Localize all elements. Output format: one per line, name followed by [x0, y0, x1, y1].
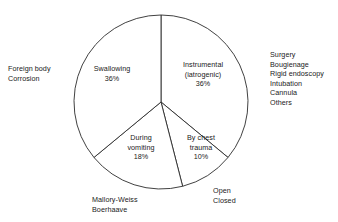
slice-label-during-vomiting-name-2: vomiting: [110, 143, 172, 153]
annotation-left: Foreign body Corrosion: [8, 64, 80, 83]
slice-label-instrumental-name-2: (iatrogenic): [160, 70, 246, 80]
annotation-right: Surgery Bougienage Rigid endoscopy Intub…: [270, 50, 338, 108]
annotation-right-line-3: Rigid endoscopy: [270, 69, 338, 79]
annotation-right-line-5: Cannula: [270, 88, 338, 98]
annotation-bottom-right-line-1: Open: [213, 186, 257, 196]
slice-label-during-vomiting: During vomiting 18%: [110, 133, 172, 162]
slice-label-chest-trauma-name: By chest: [170, 133, 232, 143]
annotation-right-line-2: Bougienage: [270, 60, 338, 70]
slice-label-chest-trauma-value: 10%: [170, 152, 232, 162]
pie-slices: [74, 15, 248, 189]
slice-label-during-vomiting-value: 18%: [110, 152, 172, 162]
annotation-right-line-1: Surgery: [270, 50, 338, 60]
annotation-right-line-6: Others: [270, 98, 338, 108]
annotation-right-line-4: Intubation: [270, 79, 338, 89]
annotation-bottom-right: Open Closed: [213, 186, 257, 205]
annotation-bottom-right-line-2: Closed: [213, 196, 257, 206]
pie-chart-figure: Swallowing 36% Instrumental (iatrogenic)…: [0, 0, 338, 222]
slice-label-chest-trauma-name-2: trauma: [170, 143, 232, 153]
annotation-bottom-left-line-1: Mallory-Weiss: [92, 195, 172, 205]
slice-label-swallowing: Swallowing 36%: [72, 64, 152, 83]
annotation-left-line-1: Foreign body: [8, 64, 80, 74]
slice-label-instrumental: Instrumental (iatrogenic) 36%: [160, 60, 246, 89]
slice-label-instrumental-name: Instrumental: [160, 60, 246, 70]
slice-label-swallowing-name: Swallowing: [72, 64, 152, 74]
annotation-bottom-left-line-2: Boerhaave: [92, 205, 172, 215]
slice-label-chest-trauma: By chest trauma 10%: [170, 133, 232, 162]
annotation-left-line-2: Corrosion: [8, 74, 80, 84]
annotation-bottom-left: Mallory-Weiss Boerhaave: [92, 195, 172, 214]
slice-label-instrumental-value: 36%: [160, 79, 246, 89]
slice-label-during-vomiting-name: During: [110, 133, 172, 143]
pie-chart-svg: [0, 0, 338, 222]
slice-label-swallowing-value: 36%: [72, 74, 152, 84]
